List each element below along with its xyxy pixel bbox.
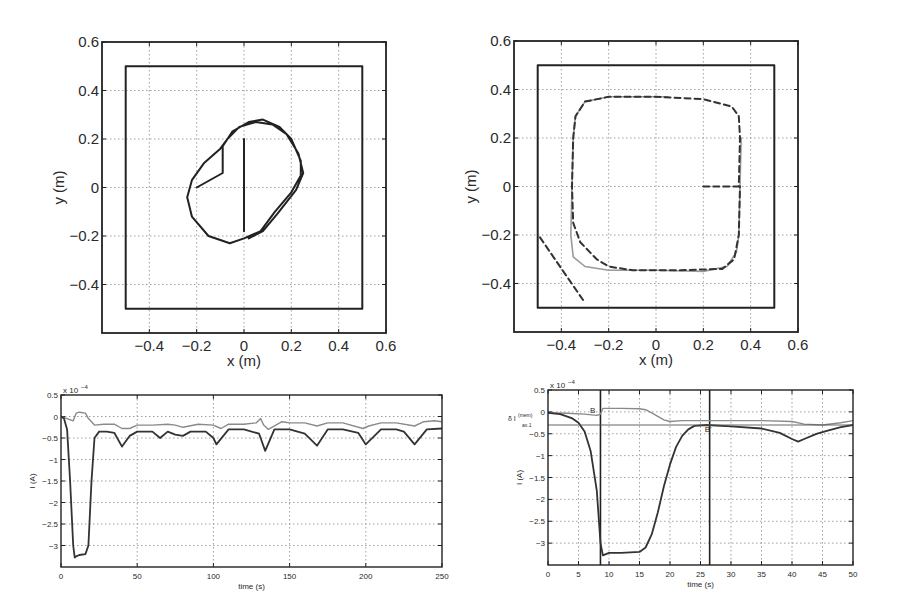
x-tick-label: −0.4 [135,337,165,354]
threshold-label-sup: (mem) [518,412,533,418]
y-scale-note: x 10 [63,386,79,395]
y-tick-label: 0.4 [78,82,99,99]
x-axis-label: x (m) [639,351,673,368]
x-tick-label: −0.2 [182,337,212,354]
figure-canvas: −0.4−0.200.20.40.60.60.40.20−0.2−0.4x (m… [0,0,902,614]
annotation-label: B [590,406,595,415]
x-tick-label: 150 [283,572,297,581]
bottom-left-chart: 0501001502002500.50−0.5−1−1.5−2−2.5−3tim… [28,384,449,591]
grid [514,41,798,332]
y-axis-label: y (m) [462,169,479,203]
grid [548,390,853,565]
x-tick-label: 200 [359,572,373,581]
y-tick-label: −2.5 [529,517,545,526]
y-tick-label: 0.5 [534,386,546,395]
y-tick-label: −1 [536,452,546,461]
y-axis-label: y (m) [50,170,67,204]
top-left-chart: −0.4−0.200.20.40.60.60.40.20−0.2−0.4x (m… [50,33,396,369]
x-tick-label: 20 [666,570,675,579]
top-right-chart: −0.4−0.200.20.40.60.60.40.20−0.2−0.4x (m… [462,32,808,368]
x-tick-label: 0 [546,570,551,579]
x-tick-label: 0.4 [740,336,761,353]
y-tick-label: 0 [541,408,546,417]
plot-area [61,412,442,557]
y-tick-label: −3 [49,542,59,551]
x-tick-label: 15 [635,570,644,579]
y-tick-label: 0 [91,179,99,196]
annotation-label: B' [705,425,712,434]
y-tick-label: −1.5 [42,477,58,486]
x-tick-label: −0.2 [594,336,624,353]
y-tick-label: 0.4 [490,81,511,98]
y-scale-note: x 10 [550,381,566,390]
x-tick-label: 45 [818,570,827,579]
x-tick-label: −0.4 [547,336,577,353]
y-tick-label: −0.2 [481,226,511,243]
y-tick-label: 0 [503,178,511,195]
y-tick-label: −3 [536,539,546,548]
y-scale-exponent: −4 [81,384,89,390]
series-line [540,237,585,303]
y-tick-label: −0.4 [69,276,99,293]
y-tick-label: −2 [536,495,546,504]
x-tick-label: 35 [757,570,766,579]
y-tick-label: 0.5 [47,391,59,400]
y-tick-label: 0.6 [78,33,99,50]
y-tick-label: −2.5 [42,520,58,529]
grid [61,395,442,567]
y-tick-label: −0.5 [42,434,58,443]
y-tick-label: 0.6 [490,32,511,49]
series-line [572,97,740,270]
threshold-label-sub: ax.1 [522,422,532,428]
x-tick-label: 0 [59,572,64,581]
x-axis-label: time (s) [238,582,265,591]
x-axis-label: x (m) [227,352,261,369]
x-tick-label: 10 [605,570,614,579]
y-tick-label: −1.5 [529,474,545,483]
x-tick-label: 50 [849,570,858,579]
x-tick-label: 0.2 [281,337,302,354]
series-line [61,412,442,429]
y-tick-label: −1 [49,456,59,465]
x-tick-label: 50 [133,572,142,581]
y-tick-label: 0.2 [78,130,99,147]
x-tick-label: 40 [788,570,797,579]
series-line [187,120,303,244]
x-tick-label: 25 [696,570,705,579]
bottom-right-chart: 051015202530354045500.50−0.5−1−1.5−2−2.5… [508,379,858,589]
y-tick-label: −0.2 [69,227,99,244]
x-tick-label: 0.2 [693,336,714,353]
y-tick-label: −0.4 [481,275,511,292]
x-tick-label: 5 [576,570,581,579]
threshold-label: δ I [508,415,516,422]
x-tick-label: 0.4 [328,337,349,354]
y-tick-label: −0.5 [529,430,545,439]
y-axis-label: I (A) [28,473,37,488]
x-tick-label: 250 [435,572,449,581]
x-tick-label: 100 [207,572,221,581]
x-axis-label: time (s) [687,580,714,589]
x-tick-label: 0.6 [376,337,397,354]
x-tick-label: 0.6 [788,336,809,353]
y-axis-label: I (A) [515,470,524,485]
x-tick-label: 30 [727,570,736,579]
y-tick-label: −2 [49,499,59,508]
y-tick-label: 0.2 [490,129,511,146]
y-scale-exponent: −4 [568,379,576,385]
y-tick-label: 0 [54,413,59,422]
